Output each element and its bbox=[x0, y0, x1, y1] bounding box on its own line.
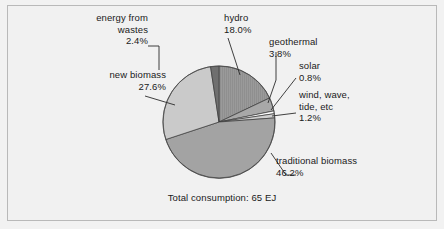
label-solar-name: solar bbox=[299, 60, 321, 72]
label-solar: solar 0.8% bbox=[299, 60, 321, 83]
label-wind-wave-tide-value: 1.2% bbox=[299, 112, 350, 124]
label-energy-from-wastes-value: 2.4% bbox=[96, 35, 148, 47]
label-hydro-value: 18.0% bbox=[224, 24, 251, 36]
label-traditional-biomass: traditional biomass 46.2% bbox=[276, 155, 357, 178]
leader-line-wastes bbox=[148, 46, 159, 70]
label-geothermal: geothermal 3.8% bbox=[269, 36, 318, 59]
label-geothermal-name: geothermal bbox=[269, 36, 318, 48]
pie-chart-figure: energy from wastes 2.4% hydro 18.0% geot… bbox=[0, 0, 444, 229]
label-energy-from-wastes: energy from wastes 2.4% bbox=[96, 12, 148, 47]
label-wind-wave-tide: wind, wave, tide, etc 1.2% bbox=[299, 89, 350, 124]
label-new-biomass: new biomass 27.6% bbox=[109, 69, 166, 92]
label-energy-from-wastes-line1: energy from bbox=[96, 12, 148, 24]
label-traditional-biomass-value: 46.2% bbox=[276, 167, 357, 179]
label-hydro: hydro 18.0% bbox=[224, 12, 251, 35]
label-new-biomass-name: new biomass bbox=[109, 69, 166, 81]
total-consumption-caption: Total consumption: 65 EJ bbox=[0, 192, 444, 204]
label-geothermal-value: 3.8% bbox=[269, 48, 318, 60]
label-new-biomass-value: 27.6% bbox=[109, 81, 166, 93]
label-wind-wave-tide-line1: wind, wave, bbox=[299, 89, 350, 101]
leader-line-geothermal bbox=[268, 52, 276, 103]
label-solar-value: 0.8% bbox=[299, 72, 321, 84]
label-wind-wave-tide-line2: tide, etc bbox=[299, 101, 350, 113]
label-energy-from-wastes-line2: wastes bbox=[96, 24, 148, 36]
label-hydro-name: hydro bbox=[224, 12, 251, 24]
leader-line-wind bbox=[272, 113, 296, 116]
label-traditional-biomass-name: traditional biomass bbox=[276, 155, 357, 167]
